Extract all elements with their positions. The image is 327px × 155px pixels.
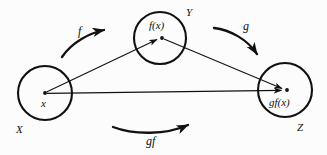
set-label-x: X [16, 124, 23, 135]
set-label-y: Y [186, 7, 192, 18]
set-label-z: Z [297, 122, 303, 133]
element-label-fx: f(x) [149, 20, 164, 31]
map-label-g: g [243, 20, 249, 32]
element-label-x: x [41, 98, 46, 109]
map-label-gf: gf [146, 135, 155, 147]
element-arrow-x-to-gfx [47, 90, 282, 93]
function-composition-diagram: X Y Z x f(x) gf(x) f g gf [0, 0, 327, 155]
element-dot-fx [160, 36, 164, 40]
element-dot-gfx [285, 88, 289, 92]
element-arrow-x-to-fx [47, 40, 158, 93]
element-dot-x [43, 91, 47, 95]
map-label-f: f [78, 25, 81, 37]
map-arrow-g [214, 28, 257, 54]
map-arrow-gf [113, 125, 188, 133]
map-arrow-f [62, 30, 104, 57]
element-label-gfx: gf(x) [269, 97, 290, 108]
element-arrow-fx-to-gfx [164, 39, 282, 89]
